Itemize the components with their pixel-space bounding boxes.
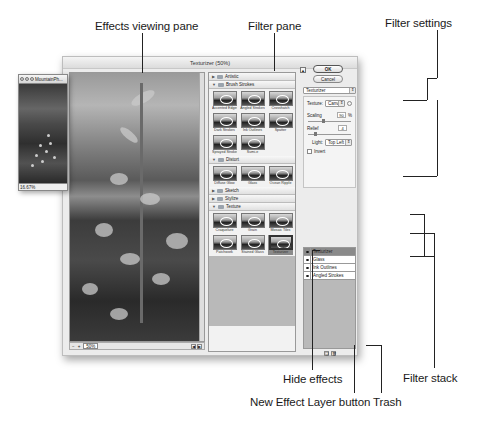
callout-hide-effects: Hide effects (283, 373, 342, 385)
leader-line (312, 250, 313, 370)
eye-icon[interactable] (304, 256, 311, 263)
leader-line (410, 233, 434, 234)
category-sketch[interactable]: ▶ Sketch (209, 187, 295, 195)
eye-icon[interactable] (304, 272, 311, 279)
filter-thumb-sprayed-strokes[interactable]: Sprayed Strokes (212, 135, 237, 155)
dropdown-arrow-icon: ⇕ (338, 101, 344, 106)
leader-line (354, 345, 355, 393)
category-texture[interactable]: ▼ Texture (209, 203, 295, 211)
leader-line (427, 78, 437, 79)
relief-input[interactable]: 4 (338, 125, 347, 131)
callout-new-effect-layer: New Effect Layer button (250, 396, 370, 408)
category-label: Texture (226, 203, 241, 211)
leader-line (437, 30, 438, 78)
invert-checkbox[interactable] (307, 149, 312, 154)
scaling-input[interactable]: 90 (337, 112, 346, 118)
slider-knob[interactable] (322, 119, 325, 123)
filter-thumb-patchwork[interactable]: Patchwork (212, 235, 237, 255)
filter-thumb-angled-strokes[interactable]: Angled Strokes (240, 91, 265, 111)
filter-thumb-stained-glass[interactable]: Stained Glass (240, 235, 265, 255)
filter-gallery-dialog: Texturizer (50%) − + 50% ◀ ▶ ▶ Artistic … (62, 56, 358, 356)
collapse-filter-pane-button[interactable]: ▲ (300, 67, 306, 73)
category-label: Distort (226, 156, 239, 164)
disclosure-down-icon: ▼ (212, 156, 216, 164)
leader-line (437, 100, 438, 176)
close-window-icon[interactable] (20, 77, 24, 81)
filter-pane-empty-area (209, 256, 295, 326)
filter-thumb-dark-strokes[interactable]: Dark Strokes (212, 113, 237, 133)
leader-line (403, 176, 437, 177)
document-zoom-status: 16.67% (19, 184, 67, 191)
category-label: Stylize (225, 195, 238, 203)
preview-scrollbar[interactable] (199, 73, 204, 341)
zoom-in-button[interactable]: + (78, 343, 81, 350)
trash-icon[interactable]: 🗑 (331, 351, 336, 356)
scaling-label: Scaling (307, 113, 322, 118)
filter-thumb-accented-edges[interactable]: Accented Edges (212, 91, 237, 111)
category-label: Brush Strokes (226, 81, 254, 89)
folder-icon (218, 158, 224, 162)
settings-box: Texture: Canvas ⇕ Scaling 90 % Relief 4 (303, 96, 356, 188)
category-distort[interactable]: ▼ Distort (209, 156, 295, 164)
filter-select[interactable]: Texturizer ⇕ (303, 87, 356, 94)
disclosure-down-icon: ▼ (212, 81, 216, 89)
leader-line (410, 214, 424, 215)
category-label: Artistic (225, 73, 239, 81)
filter-thumb-crosshatch[interactable]: Crosshatch (268, 91, 293, 111)
document-window: MountainPh... 16.67% (18, 74, 68, 191)
eye-icon[interactable] (304, 248, 311, 255)
texture-select[interactable]: Canvas ⇕ (325, 100, 345, 107)
folder-icon (217, 197, 223, 201)
texture-options-icon[interactable] (347, 101, 352, 106)
filter-thumb-ocean-ripple[interactable]: Ocean Ripple (268, 166, 293, 186)
disclosure-right-icon: ▶ (212, 195, 215, 203)
leader-line (434, 233, 435, 368)
scroll-left-icon[interactable]: ◀ (191, 344, 196, 349)
zoom-level-select[interactable]: 50% (83, 343, 98, 349)
new-effect-layer-button[interactable]: ❏ (324, 351, 329, 356)
relief-label: Relief (307, 126, 319, 131)
filter-thumb-texturizer[interactable]: Texturizer (268, 235, 293, 255)
callout-filter-stack: Filter stack (403, 372, 457, 384)
callout-filter-settings: Filter settings (385, 17, 452, 29)
scaling-slider[interactable] (308, 121, 351, 122)
slider-knob[interactable] (314, 132, 317, 136)
callout-filter-pane: Filter pane (248, 20, 301, 32)
leader-line (427, 78, 428, 100)
scroll-right-icon[interactable]: ▶ (197, 344, 202, 349)
leader-line (142, 33, 143, 73)
filter-thumb-mosaic-tiles[interactable]: Mosaic Tiles (268, 213, 293, 233)
filter-thumb-diffuse-glow[interactable]: Diffuse Glow (212, 166, 237, 186)
leader-line (410, 256, 434, 257)
filter-thumb-craquelure[interactable]: Craquelure (212, 213, 237, 233)
leader-line (381, 345, 382, 393)
filter-settings-panel: ▲ OK Cancel Texturizer ⇕ Texture: Canvas… (300, 65, 356, 355)
disclosure-right-icon: ▶ (212, 73, 215, 81)
category-label: Sketch (225, 187, 239, 195)
filter-thumb-ink-outlines[interactable]: Ink Outlines (240, 113, 265, 133)
leader-line (274, 33, 275, 71)
relief-slider[interactable] (308, 134, 351, 135)
light-select[interactable]: Top Left ⇕ (325, 139, 352, 146)
preview-zoom-bar: − + 50% ◀ ▶ (69, 342, 205, 350)
ok-button[interactable]: OK (313, 65, 343, 73)
filter-thumb-spatter[interactable]: Spatter (268, 113, 293, 133)
disclosure-right-icon: ▶ (212, 187, 215, 195)
document-image (19, 83, 67, 184)
callout-trash: Trash (373, 396, 401, 408)
zoom-out-button[interactable]: − (72, 343, 75, 350)
category-stylize[interactable]: ▶ Stylize (209, 195, 295, 203)
filter-thumb-grain[interactable]: Grain (240, 213, 265, 233)
folder-icon (218, 83, 224, 87)
eye-icon[interactable] (304, 264, 311, 271)
dropdown-arrow-icon: ⇕ (345, 140, 351, 145)
leader-line (424, 214, 425, 256)
zoom-window-icon[interactable] (30, 77, 34, 81)
effects-preview-pane[interactable] (69, 72, 205, 342)
cancel-button[interactable]: Cancel (313, 75, 343, 83)
filter-thumb-glass[interactable]: Glass (240, 166, 265, 186)
category-brush-strokes[interactable]: ▼ Brush Strokes (209, 81, 295, 89)
minimize-window-icon[interactable] (25, 77, 29, 81)
texture-label: Texture: (307, 101, 323, 106)
filter-thumb-sumi-e[interactable]: Sumi-e (240, 135, 265, 155)
